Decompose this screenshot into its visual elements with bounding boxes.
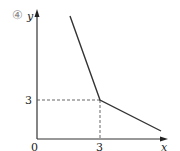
y-axis-label: y: [26, 10, 34, 23]
y-tick-label-3: 3: [25, 94, 32, 107]
graph-line: [70, 16, 161, 131]
figure-label: ④: [12, 8, 23, 22]
origin-label: 0: [31, 141, 38, 151]
x-axis-label: x: [161, 141, 168, 151]
graph-canvas: ④ y x 0 3 3: [0, 0, 180, 151]
y-axis-arrow-icon: [35, 9, 40, 17]
x-tick-label-3: 3: [96, 141, 103, 151]
